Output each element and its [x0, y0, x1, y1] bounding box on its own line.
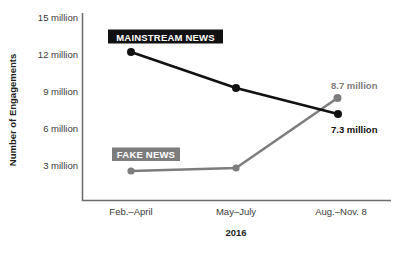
line-chart: 15 million 12 million 9 million 6 millio…: [0, 0, 406, 257]
fake-news-point-may-july: [232, 164, 239, 171]
fake-news-badge-label: FAKE NEWS: [117, 149, 175, 160]
mainstream-news-point-feb-april: [127, 48, 135, 56]
mainstream-news-badge-label: MAINSTREAM NEWS: [116, 32, 215, 43]
y-axis-title: Number of Engagements: [7, 54, 18, 166]
fake-news-point-aug-nov: [334, 94, 342, 102]
y-tick-label-6m: 6 million: [43, 123, 78, 134]
mainstream-news-point-may-july: [232, 84, 240, 92]
y-tick-label-15m: 15 million: [38, 12, 78, 23]
fake-news-point-feb-april: [127, 167, 134, 174]
y-tick-label-3m: 3 million: [43, 160, 78, 171]
y-tick-label-9m: 9 million: [43, 86, 78, 97]
mainstream-news-line: [131, 52, 338, 114]
fake-news-badge: FAKE NEWS: [112, 148, 180, 162]
x-tick-label-may-july: May–July: [216, 206, 256, 217]
y-tick-label-12m: 12 million: [38, 49, 78, 60]
mainstream-news-badge: MAINSTREAM NEWS: [108, 30, 223, 44]
x-tick-label-feb-april: Feb.–April: [109, 206, 152, 217]
fake-news-value-annotation: 8.7 million: [331, 80, 378, 91]
x-tick-label-aug-nov: Aug.–Nov. 8: [315, 206, 367, 217]
mainstream-news-value-annotation: 7.3 million: [331, 124, 378, 135]
mainstream-news-point-aug-nov: [334, 110, 342, 118]
x-axis-title: 2016: [225, 227, 246, 238]
